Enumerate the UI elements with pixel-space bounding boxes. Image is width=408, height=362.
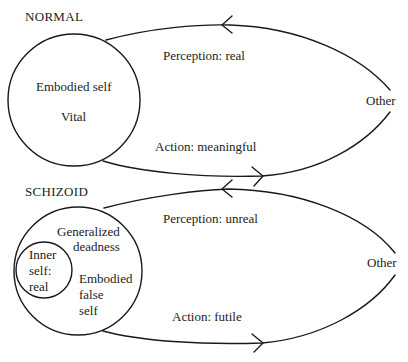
schizoid-false-self-line3: self — [79, 303, 98, 318]
normal-heading: NORMAL — [25, 9, 83, 24]
schizoid-action-arc — [103, 275, 395, 344]
normal-action-label: Action: meaningful — [155, 139, 256, 154]
normal-self-label: Embodied self — [36, 79, 111, 94]
schizoid-inner-self-line3: real — [29, 279, 48, 294]
schizoid-inner-self-line1: Inner — [29, 247, 56, 262]
normal-self-state: Vital — [61, 109, 86, 124]
schizoid-outer-label-line1: Generalized — [57, 224, 120, 239]
normal-perception-label: Perception: real — [163, 48, 245, 63]
schizoid-action-label: Action: futile — [172, 309, 242, 324]
schizoid-outer-label-line2: deadness — [73, 239, 120, 254]
schizoid-false-self-line2: false — [79, 287, 104, 302]
schizoid-other-label: Other — [367, 255, 397, 270]
normal-perception-arc — [106, 25, 390, 90]
schizoid-false-self-line1: Embodied — [79, 271, 132, 286]
schizoid-inner-self-line2: self: — [29, 263, 51, 278]
normal-other-label: Other — [366, 93, 396, 108]
schizoid-perception-label: Perception: unreal — [163, 211, 258, 226]
normal-self-circle — [8, 34, 140, 166]
schizoid-heading: SCHIZOID — [25, 184, 88, 199]
